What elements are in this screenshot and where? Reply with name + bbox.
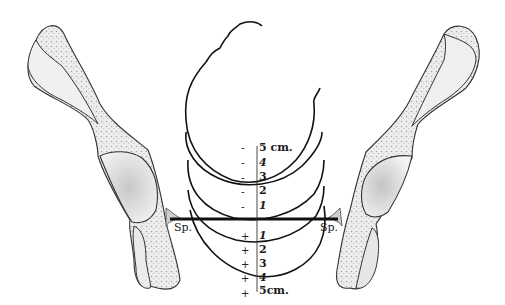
scale-sign: - — [241, 173, 245, 183]
scale-sign: - — [241, 187, 245, 197]
scale-sign: + — [241, 289, 249, 299]
head-station-minus-2 — [186, 132, 322, 185]
scale-label-minus-1: 1 — [259, 200, 267, 211]
scale-sign: + — [241, 260, 249, 270]
scale-label-minus-4: 4 — [259, 157, 267, 168]
scale-label-plus-4: 4 — [259, 272, 267, 283]
station-diagram: - 5 cm. - 4 - 3 - 2 - 1 + 1 + 2 + 3 + 4 … — [0, 0, 505, 305]
left-ischial-spine-label: Sp. — [174, 221, 192, 234]
scale-label-plus-3: 3 — [259, 258, 267, 269]
scale-sign: - — [241, 202, 245, 212]
scale-label-minus-3: 3 — [259, 171, 267, 182]
scale-sign: + — [241, 274, 249, 284]
left-hip-bone — [28, 26, 180, 289]
head-profile — [186, 22, 320, 182]
scale-label-plus-2: 2 — [259, 244, 267, 255]
right-ischial-spine-label: Sp. — [320, 221, 338, 234]
scale-label-plus-5: 5cm. — [259, 285, 289, 296]
scale-label-minus-2: 2 — [259, 185, 267, 196]
fetal-head-outlines — [186, 22, 326, 277]
head-station-0 — [188, 160, 324, 220]
right-hip-bone — [328, 26, 479, 289]
scale-sign: + — [241, 232, 249, 242]
pelvis-illustration — [0, 0, 505, 305]
scale-label-minus-5: 5 cm. — [259, 142, 293, 153]
scale-sign: - — [241, 158, 245, 168]
scale-label-plus-1: 1 — [259, 230, 267, 241]
scale-sign: + — [241, 246, 249, 256]
scale-sign: - — [241, 143, 245, 153]
head-station-plus-2 — [188, 186, 324, 242]
